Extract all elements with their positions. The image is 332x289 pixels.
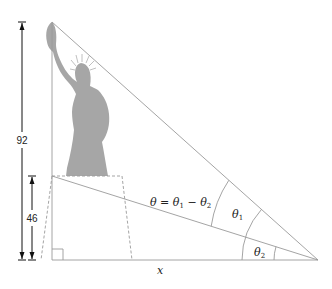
theta1-label: θ1 — [232, 208, 243, 222]
statue-diagram: 92 46 x θ = θ1 − θ2 θ1 θ2 — [0, 0, 332, 289]
pedestal-right-edge — [122, 176, 132, 260]
height-92-label: 92 — [16, 135, 28, 146]
theta-equation-label: θ = θ1 − θ2 — [150, 196, 211, 210]
right-angle-marker — [52, 249, 63, 260]
pedestal-left-edge — [41, 176, 52, 260]
height-46-label: 46 — [26, 213, 38, 224]
theta2-arc — [274, 247, 276, 260]
angle-arcs — [211, 180, 276, 260]
theta2-label: θ2 — [254, 246, 265, 260]
distance-x-label: x — [157, 264, 164, 277]
theta-arc — [211, 180, 229, 226]
sightline-to-pedestal — [52, 176, 318, 260]
pedestal-outline — [41, 176, 132, 260]
